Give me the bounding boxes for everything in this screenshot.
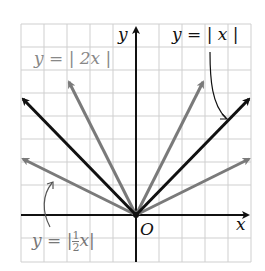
origin-label: O: [140, 219, 154, 239]
y-axis-label: y: [118, 24, 128, 44]
x-axis-label: x: [236, 214, 246, 234]
label-abs-x: y = | x |: [172, 24, 239, 44]
origin-point: [133, 212, 139, 218]
label-abs-half-x: y = |12x|: [32, 230, 95, 253]
pointer-abs-x: [210, 52, 226, 118]
pointer-half-x: [44, 183, 52, 227]
label-abs-2x: y = | 2x |: [34, 48, 111, 68]
